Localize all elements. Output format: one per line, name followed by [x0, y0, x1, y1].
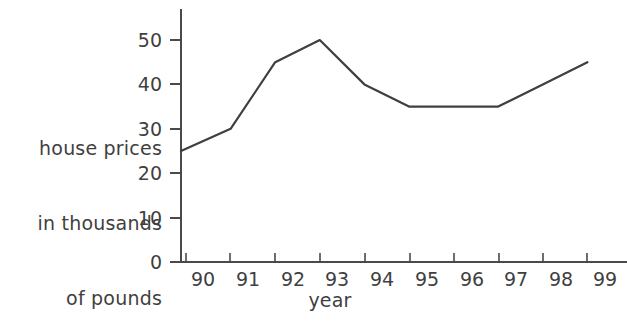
axes — [181, 9, 627, 262]
data-series-line — [181, 40, 587, 151]
chart-canvas — [0, 0, 627, 325]
line-chart: house prices in thousands of pounds 0 10… — [0, 0, 627, 325]
x-axis-ticks — [186, 253, 587, 262]
y-axis-ticks — [170, 40, 181, 262]
